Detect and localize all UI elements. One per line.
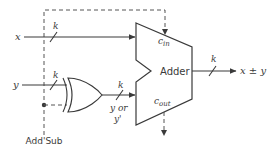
addsub-label: Add'Sub [25, 136, 62, 146]
y-width-label: k [53, 70, 58, 80]
adder-label: Adder [160, 66, 191, 77]
xor-gate [63, 78, 102, 112]
y-input: y k [12, 70, 67, 90]
xor-output: k y or y' [102, 80, 135, 124]
cout-arrow-icon [161, 130, 167, 136]
control-tap [42, 103, 67, 107]
cout-output [161, 112, 167, 136]
adder-output: k x ± y [192, 54, 266, 76]
output-width-label: k [211, 54, 216, 64]
xor-width-label: k [118, 80, 123, 90]
x-label: x [15, 31, 21, 42]
y-or-label: y or [109, 103, 128, 113]
adder-subtractor-diagram: x k y k k y or y' Adder cin cout [0, 0, 276, 148]
output-label: x ± y [240, 65, 266, 76]
x-width-label: k [53, 21, 58, 31]
x-input: x k [15, 21, 135, 42]
adder-block: Adder cin cout [136, 23, 192, 125]
y-label: y [12, 79, 19, 90]
y-prime-label: y' [113, 114, 122, 124]
